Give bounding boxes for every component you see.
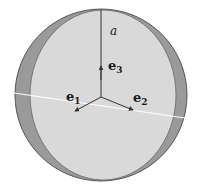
label-e2-sub: 2: [141, 97, 147, 107]
label-e1-base: e: [66, 89, 74, 104]
sphere-face: [30, 10, 176, 180]
label-e3-base: e: [108, 58, 116, 73]
axis-label-a: a: [110, 24, 117, 38]
label-e3-sub: 3: [116, 65, 122, 75]
label-e2-base: e: [133, 90, 141, 105]
label-e1-sub: 1: [74, 96, 80, 106]
sphere-diagram: a e3 e1 e2: [0, 0, 201, 190]
